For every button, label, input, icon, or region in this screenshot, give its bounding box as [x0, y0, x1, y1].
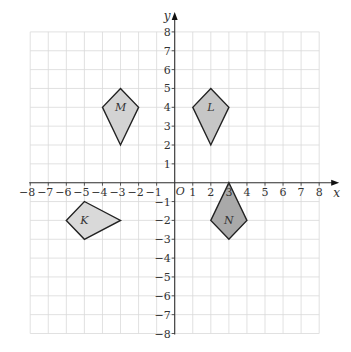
y-axis-arrow-icon	[172, 12, 178, 20]
x-tick-label: −4	[91, 186, 107, 199]
y-tick-label: 5	[164, 82, 171, 95]
x-tick-label: 8	[316, 186, 323, 199]
y-tick-label: 2	[164, 139, 171, 152]
shape-label-n: N	[223, 214, 234, 227]
y-tick-label: −2	[154, 214, 170, 227]
shape-label-m: M	[114, 101, 127, 114]
x-tick-label: 5	[262, 186, 269, 199]
x-tick-label: −3	[109, 186, 125, 199]
y-tick-label: 1	[164, 158, 171, 171]
x-tick-label: −7	[37, 186, 53, 199]
origin-label: O	[176, 185, 185, 198]
shape-label-k: K	[79, 214, 89, 227]
tick-labels: −8−7−6−5−4−3−2−11234567887654321−1−2−3−4…	[19, 9, 340, 341]
y-tick-label: 6	[164, 64, 171, 77]
x-tick-label: −8	[19, 186, 35, 199]
kite-l	[193, 88, 229, 145]
y-tick-label: 3	[164, 120, 171, 133]
y-tick-label: −3	[154, 233, 170, 246]
y-tick-label: 8	[164, 26, 171, 39]
y-tick-label: −1	[154, 196, 170, 209]
x-tick-label: 2	[207, 186, 214, 199]
y-tick-label: −6	[154, 290, 170, 303]
y-tick-label: −8	[154, 328, 170, 341]
coordinate-plane: MLKN −8−7−6−5−4−3−2−11234567887654321−1−…	[0, 0, 351, 352]
x-tick-label: −6	[55, 186, 71, 199]
y-tick-label: 7	[164, 45, 171, 58]
x-axis-label: x	[333, 186, 340, 200]
x-tick-label: 7	[298, 186, 305, 199]
y-tick-label: −4	[154, 252, 170, 265]
x-tick-label: 6	[280, 186, 287, 199]
x-tick-label: 3	[225, 186, 232, 199]
y-tick-label: 4	[164, 101, 171, 114]
axes	[29, 12, 339, 335]
x-tick-label: −2	[127, 186, 143, 199]
y-tick-label: −5	[154, 271, 170, 284]
kite-k	[66, 202, 120, 240]
x-tick-label: 4	[243, 186, 250, 199]
kite-m	[103, 88, 139, 145]
shape-label-l: L	[206, 101, 214, 114]
y-axis-label: y	[163, 9, 171, 23]
y-tick-label: −7	[154, 309, 170, 322]
x-tick-label: −5	[73, 186, 89, 199]
x-tick-label: 1	[189, 186, 196, 199]
